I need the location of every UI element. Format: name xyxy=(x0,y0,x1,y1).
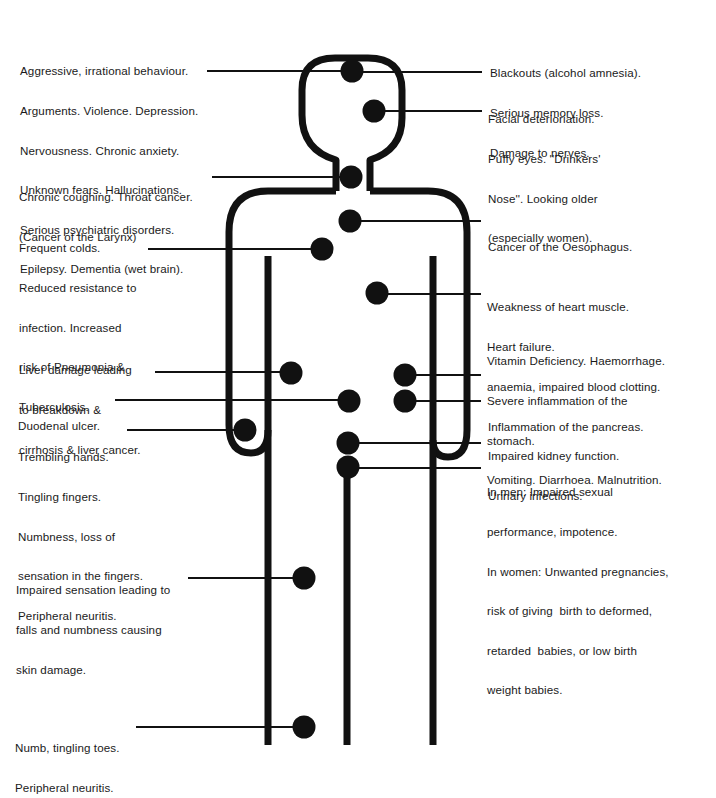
dot-pancreas xyxy=(394,390,417,413)
dot-liver xyxy=(280,362,303,385)
dot-stomach xyxy=(394,364,417,387)
dot-sexual xyxy=(337,456,360,479)
dot-face xyxy=(363,100,386,123)
label-toes: Numb, tingling toes. Peripheral neuritis… xyxy=(15,715,119,798)
dot-heart xyxy=(366,282,389,305)
dot-lungs xyxy=(311,238,334,261)
dot-brain xyxy=(341,60,364,83)
dot-duodenum xyxy=(338,390,361,413)
label-oesophagus: Cancer of the Oesophagus. xyxy=(488,214,632,267)
dot-legs xyxy=(293,567,316,590)
dot-throat xyxy=(340,166,363,189)
dot-toes xyxy=(293,716,316,739)
torso-outline-left xyxy=(229,191,336,453)
torso-outline-right xyxy=(370,191,467,457)
dot-hands xyxy=(234,419,257,442)
label-sexual: In men: Impaired sexual performance, imp… xyxy=(487,459,669,710)
label-legs: Impaired sensation leading to falls and … xyxy=(16,557,170,689)
dot-oesophagus xyxy=(339,210,362,233)
dot-kidney xyxy=(337,432,360,455)
